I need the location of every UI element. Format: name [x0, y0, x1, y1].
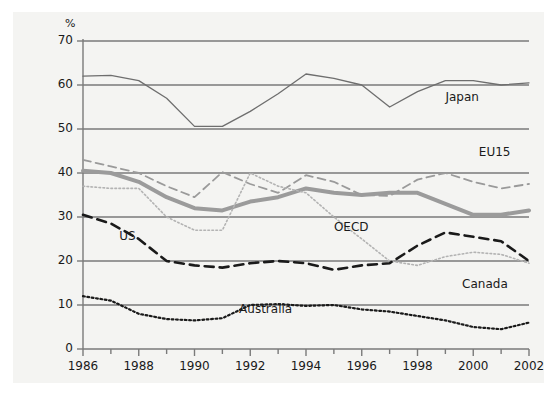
- x-axis-tick-label: 1990: [175, 359, 215, 373]
- chart-figure: % 01020304050607019861988199019921994199…: [13, 12, 544, 383]
- x-axis-tick-label: 2000: [453, 359, 493, 373]
- line-chart-plot: [13, 12, 544, 383]
- y-axis-tick-label: 30: [43, 209, 73, 223]
- y-axis-tick-label: 50: [43, 121, 73, 135]
- y-axis-tick-label: 70: [43, 33, 73, 47]
- x-axis-tick-label: 1994: [286, 359, 326, 373]
- y-axis-tick-label: 0: [43, 341, 73, 355]
- x-axis-tick-label: 1988: [119, 359, 159, 373]
- series-label-oecd: OECD: [334, 220, 369, 234]
- y-axis-tick-label: 10: [43, 297, 73, 311]
- y-axis-tick-label: 60: [43, 77, 73, 91]
- y-axis-tick-label: 40: [43, 165, 73, 179]
- x-axis-tick-label: 1986: [63, 359, 103, 373]
- x-axis-tick-label: 1996: [342, 359, 382, 373]
- series-label-australia: Australia: [239, 302, 292, 316]
- series-label-us: US: [119, 229, 135, 243]
- y-axis-tick-label: 20: [43, 253, 73, 267]
- x-axis-tick-label: 2002: [509, 359, 549, 373]
- series-line-australia: [83, 296, 529, 329]
- x-axis-tick-label: 1992: [230, 359, 270, 373]
- series-label-canada: Canada: [462, 277, 508, 291]
- x-axis-tick-label: 1998: [398, 359, 438, 373]
- series-label-eu15: EU15: [479, 145, 511, 159]
- series-label-japan: Japan: [445, 90, 478, 104]
- series-line-eu15: [83, 160, 529, 197]
